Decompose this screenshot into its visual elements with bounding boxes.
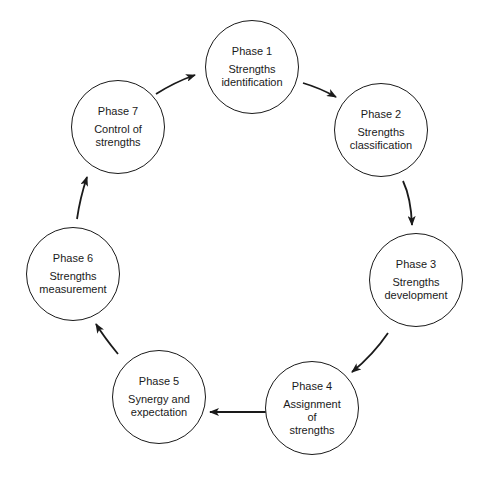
phase-title: Phase 1 <box>232 45 272 58</box>
phase-label: Strengths <box>49 270 96 283</box>
phase-title: Phase 6 <box>53 252 93 265</box>
phase-label: expectation <box>131 406 187 419</box>
phase-label: Strengths <box>392 276 439 289</box>
phase-title: Phase 7 <box>98 105 138 118</box>
phase-label: classification <box>350 139 412 152</box>
phase-title: Phase 5 <box>139 375 179 388</box>
phase-4-node: Phase 4 Assignment of strengths <box>265 361 359 455</box>
phase-label: identification <box>221 76 282 89</box>
arrow-6-to-7 <box>77 177 87 219</box>
phase-label: Assignment <box>283 398 340 411</box>
arrow-5-to-6 <box>96 324 118 354</box>
arrow-2-to-3 <box>403 181 412 225</box>
phase-label: strengths <box>289 424 334 437</box>
phase-title: Phase 4 <box>292 380 332 393</box>
phase-label: strengths <box>95 136 140 149</box>
arrow-7-to-1 <box>156 75 195 94</box>
phase-2-node: Phase 2 Strengths classification <box>334 83 428 177</box>
phase-1-node: Phase 1 Strengths identification <box>205 20 299 114</box>
phase-label: measurement <box>39 283 106 296</box>
phase-label: Strengths <box>228 63 275 76</box>
arrow-3-to-4 <box>352 333 388 372</box>
phase-label: development <box>385 289 448 302</box>
phase-title: Phase 2 <box>361 108 401 121</box>
phase-label: of <box>307 411 316 424</box>
phase-5-node: Phase 5 Synergy and expectation <box>112 350 206 444</box>
phase-label: Strengths <box>357 126 404 139</box>
phase-7-node: Phase 7 Control of strengths <box>71 80 165 174</box>
phase-label: Synergy and <box>128 393 190 406</box>
phase-label: Control of <box>94 123 142 136</box>
phase-title: Phase 3 <box>396 258 436 271</box>
arrow-1-to-2 <box>303 83 336 97</box>
phase-6-node: Phase 6 Strengths measurement <box>26 227 120 321</box>
phase-3-node: Phase 3 Strengths development <box>369 233 463 327</box>
